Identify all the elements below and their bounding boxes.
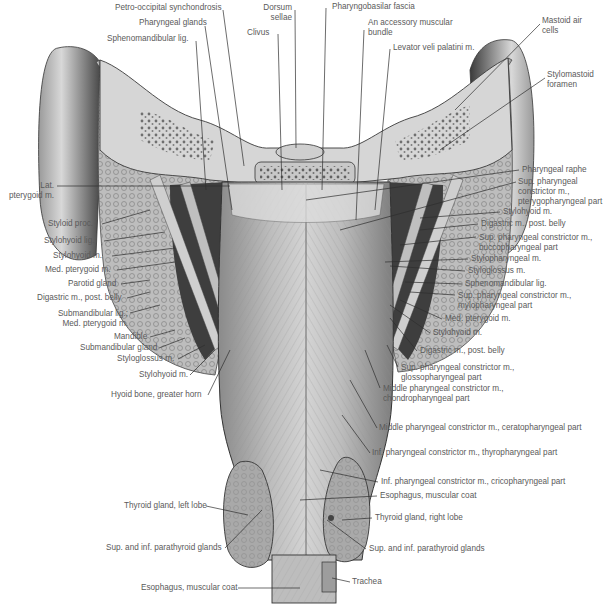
label-esophagus-bottom: Esophagus, muscular coat — [141, 583, 237, 593]
trachea — [322, 562, 336, 592]
label-thyroid-left: Thyroid gland, left lobe — [124, 501, 207, 511]
label-stylohyoid-m-left: Stylohyoid m. — [53, 251, 102, 261]
label-lat-pterygoid: Lat. pterygoid m. — [6, 181, 54, 201]
label-parotid-gland: Parotid gland — [68, 279, 116, 289]
label-stylohyoid-lig: Stylohyoid lig. — [44, 236, 95, 246]
label-accessory-muscular-bundle: An accessory muscular bundle — [368, 18, 453, 38]
label-med-pterygoid-right: Med. pterygoid m. — [445, 314, 511, 324]
label-submandibular-lig: Submandibular lig.; Med. pterygoid m. — [56, 309, 128, 329]
label-sup-constrictor-mylo: Sup. pharyngeal constrictor m., mylophar… — [458, 291, 571, 311]
label-sup-constrictor-pterygo: Sup. pharyngeal constrictor m., pterygop… — [518, 177, 602, 207]
label-middle-constrictor-cerato: Middle pharyngeal constrictor m., cerato… — [379, 423, 582, 433]
label-dorsum-sellae: Dorsum sellae — [256, 3, 292, 23]
label-styloid-proc: Styloid proc. — [48, 219, 93, 229]
label-digastric-right: Digastric m., post. belly — [481, 219, 566, 229]
label-clivus: Clivus — [247, 28, 269, 38]
label-digastric-right2: Digastric m., post. belly — [420, 346, 505, 356]
label-submandibular-gland: Submandibular gland — [80, 343, 157, 353]
label-middle-constrictor-chondro: Middle pharyngeal constrictor m., chondr… — [383, 384, 504, 404]
label-pharyngobasilar-fascia: Pharyngobasilar fascia — [332, 2, 415, 12]
label-parathyroid-right: Sup. and inf. parathyroid glands — [369, 544, 485, 554]
label-inf-constrictor-thyro: Inf. pharyngeal constrictor m., thyropha… — [372, 448, 557, 458]
label-stylohyoid-right: Stylohyoid m. — [503, 207, 552, 217]
label-stylopharyngeal: Stylopharyngeal m. — [471, 254, 541, 264]
label-thyroid-right: Thyroid gland, right lobe — [375, 513, 463, 523]
dorsum-sellae-shape — [276, 144, 324, 160]
label-inf-constrictor-crico: Inf. pharyngeal constrictor m., cricopha… — [381, 477, 565, 487]
label-digastric-left: Digastric m., post. belly — [37, 293, 122, 303]
label-sup-constrictor-glosso: Sup. pharyngeal constrictor m., glossoph… — [401, 363, 514, 383]
label-mastoid-air-cells: Mastoid air cells — [542, 16, 582, 36]
label-stylohyoid-right2: Stylohyoid m. — [433, 328, 482, 338]
label-trachea: Trachea — [352, 577, 382, 587]
label-sphenomandibular-lig-top: Sphenomandibular lig. — [107, 34, 188, 44]
label-styloglossus-right: Styloglossus m. — [468, 266, 525, 276]
label-pharyngeal-glands: Pharyngeal glands — [139, 18, 207, 28]
label-parathyroid-left: Sup. and inf. parathyroid glands — [106, 543, 222, 553]
label-esophagus-right: Esophagus, muscular coat — [380, 491, 476, 501]
label-sphenomandibular-right: Sphenomandibular lig. — [465, 279, 546, 289]
label-stylomastoid-foramen: Stylomastoid foramen — [547, 70, 594, 90]
label-styloglossus-left: Styloglossus m. — [117, 354, 174, 364]
anatomical-figure: Petro-occipital synchondrosis Pharyngeal… — [0, 0, 613, 613]
label-petro-occipital-synchondrosis: Petro-occipital synchondrosis — [115, 3, 222, 13]
label-levator-veli-palatini: Levator veli palatini m. — [393, 43, 474, 53]
label-stylohyoid-m-left2: Stylohyoid m. — [139, 370, 188, 380]
label-med-pterygoid-left: Med. pterygoid m. — [45, 265, 111, 275]
label-pharyngeal-raphe: Pharyngeal raphe — [522, 165, 587, 175]
label-hyoid-bone: Hyoid bone, greater horn — [111, 390, 202, 400]
label-sup-constrictor-bucco: Sup. pharyngeal constrictor m., buccopha… — [479, 233, 592, 253]
label-mandible: Mandible — [114, 332, 147, 342]
